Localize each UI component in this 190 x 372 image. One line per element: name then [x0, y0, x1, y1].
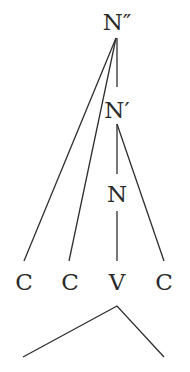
- edge-ndb-c2: [69, 38, 116, 261]
- node-n-bar: N′: [104, 97, 129, 123]
- node-n-double-bar: N″: [103, 9, 132, 35]
- edge-ndb-c1: [24, 38, 116, 261]
- segment-v: V: [108, 269, 126, 295]
- syllable-tree: N″ N′ N C C V C: [0, 0, 190, 372]
- segment-c2: C: [61, 269, 79, 295]
- bottom-wedge: [23, 306, 164, 357]
- segment-c4: C: [155, 269, 173, 295]
- node-n: N: [107, 181, 127, 207]
- segment-c1: C: [15, 269, 33, 295]
